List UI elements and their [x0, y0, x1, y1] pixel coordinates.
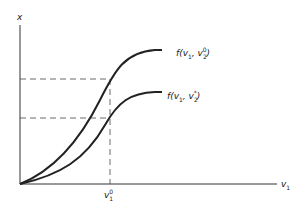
label-mid: , v: [192, 48, 203, 58]
tick-sup: 0: [109, 188, 113, 195]
tick-v1-0: v10: [104, 189, 113, 202]
x-axis-label: v1: [281, 180, 290, 191]
curve-upper: [20, 50, 162, 184]
label-mid: , v: [183, 91, 194, 101]
x-axis-label-sub: 1: [286, 184, 290, 191]
tick-sub: 1: [109, 195, 113, 202]
curve-lower-label: f(v1, v2*): [167, 90, 200, 103]
curve-lower: [20, 92, 162, 184]
curve-upper-label: f(v1, v20): [176, 47, 210, 60]
label-prefix: f(v: [167, 91, 179, 101]
y-axis-label: x: [17, 13, 22, 22]
label-suffix: ): [197, 91, 201, 101]
diagram-canvas: [0, 0, 299, 209]
label-suffix: ): [207, 48, 211, 58]
label-prefix: f(v: [176, 48, 188, 58]
